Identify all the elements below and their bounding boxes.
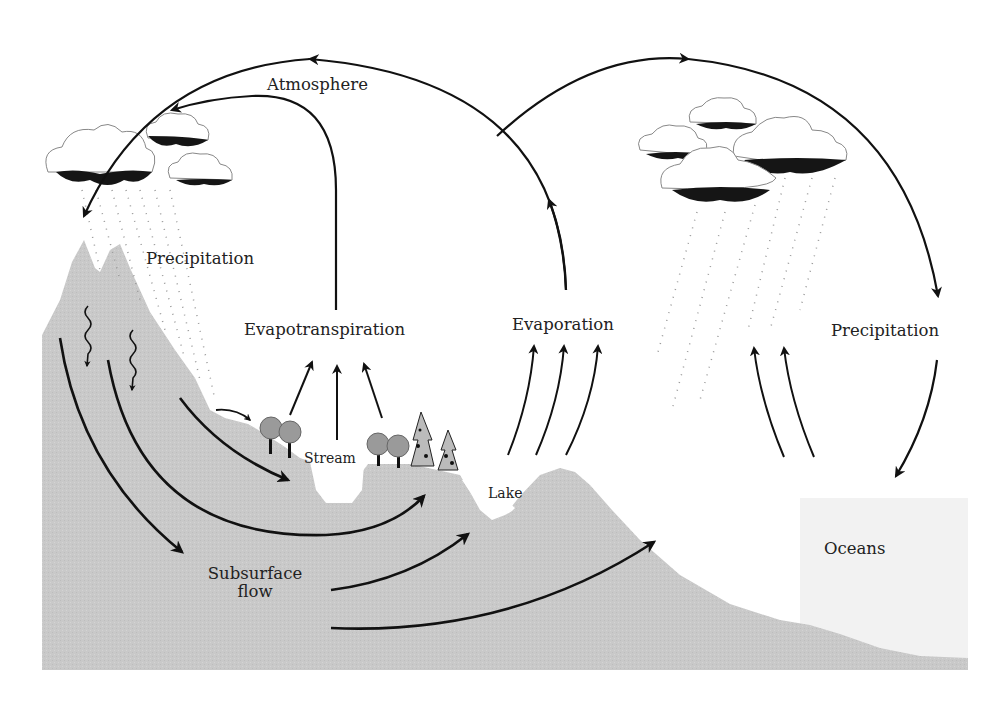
conifer-icon <box>438 430 458 470</box>
tree-icon <box>367 433 389 466</box>
label-precipitation-ocean: Precipitation <box>831 322 939 340</box>
water-cycle-diagram <box>0 0 994 702</box>
arrow-precipitation-to-ocean <box>896 360 937 476</box>
label-stream: Stream <box>304 451 356 466</box>
tree-icon <box>387 435 409 468</box>
evaporation-arrows <box>508 346 598 455</box>
label-oceans: Oceans <box>824 540 885 558</box>
label-lake: Lake <box>488 486 522 501</box>
clouds-left <box>46 113 232 185</box>
arrow-evaporation-to-ocean-clouds <box>497 58 688 136</box>
label-evaporation: Evaporation <box>512 316 614 334</box>
ocean-evaporation-arrows <box>754 348 814 457</box>
cloud-icon <box>689 98 756 130</box>
label-evapotranspiration: Evapotranspiration <box>244 321 405 339</box>
label-subsurface-line2: flow <box>205 583 305 601</box>
label-precipitation-land: Precipitation <box>146 250 254 268</box>
label-subsurface-flow: Subsurface flow <box>205 565 305 601</box>
trees-right <box>367 412 458 470</box>
clouds-right <box>639 98 847 202</box>
cloud-icon <box>168 153 232 185</box>
conifer-icon <box>411 412 434 466</box>
label-atmosphere: Atmosphere <box>267 76 368 94</box>
label-subsurface-line1: Subsurface <box>205 565 305 583</box>
rain-right <box>658 178 835 410</box>
evapotranspiration-arrows <box>290 362 382 440</box>
